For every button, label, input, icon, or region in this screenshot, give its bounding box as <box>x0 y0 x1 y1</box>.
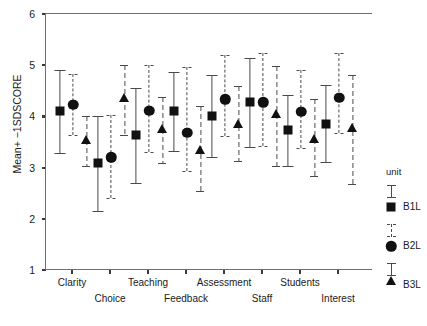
error-bar-cap-bottom <box>335 133 344 134</box>
error-bar-cap-top <box>131 88 142 89</box>
error-bar-cap-bottom <box>283 166 294 167</box>
error-bar-cap-bottom <box>69 135 78 136</box>
error-bar-cap-bottom <box>348 184 356 185</box>
x-tick-label: Staff <box>252 293 272 304</box>
error-bar-cap-top <box>82 116 90 117</box>
y-tick-label: 3 <box>29 163 35 173</box>
error-bar-line <box>186 67 187 171</box>
circle-marker-icon <box>68 99 79 110</box>
error-bar-cap-top <box>93 116 104 117</box>
error-bar-cap-top <box>272 66 280 67</box>
y-tick-label: 2 <box>29 214 35 224</box>
error-bar-cap-bottom <box>93 211 104 212</box>
triangle-marker-icon <box>233 119 243 128</box>
y-tick-label: 6 <box>29 9 35 19</box>
square-marker-icon <box>94 158 103 167</box>
square-marker-icon <box>246 98 255 107</box>
square-marker-icon <box>208 111 217 120</box>
x-tick-mark <box>109 270 111 274</box>
square-marker-icon <box>170 106 179 115</box>
x-tick-mark <box>299 270 301 274</box>
error-bar-cap-top <box>169 72 180 73</box>
error-bar-cap-top <box>145 65 154 66</box>
chart-root: Mean+ −1SDSCORE 123456 unit B1L B2L B3L … <box>0 0 427 326</box>
error-bar-cap-bottom <box>158 163 166 164</box>
triangle-marker-icon <box>386 276 396 285</box>
y-tick-label: 4 <box>29 111 35 121</box>
square-marker-icon <box>284 126 293 135</box>
error-bar-cap-bottom <box>221 136 230 137</box>
error-bar-cap-bottom <box>321 162 332 163</box>
circle-marker-icon <box>106 152 117 163</box>
x-tick-label: Interest <box>321 293 354 304</box>
error-bar-cap-top <box>183 67 192 68</box>
y-tick-label: 5 <box>29 60 35 70</box>
triangle-marker-icon <box>81 135 91 144</box>
triangle-marker-icon <box>157 124 167 133</box>
error-bar-cap-top <box>297 70 306 71</box>
error-bar-cap-bottom <box>196 191 204 192</box>
error-bar-cap-bottom <box>131 183 142 184</box>
square-marker-icon <box>132 131 141 140</box>
error-bar-cap-bottom <box>297 148 306 149</box>
circle-marker-icon <box>182 128 193 139</box>
triangle-marker-icon <box>195 145 205 154</box>
error-bar-cap-top <box>69 74 78 75</box>
error-bar-cap-top <box>196 106 204 107</box>
legend-label-b3l: B3L <box>403 279 421 290</box>
circle-marker-icon <box>386 241 397 252</box>
legend-label-b2l: B2L <box>403 240 421 251</box>
error-bar-cap-bottom <box>107 198 116 199</box>
legend-bar-b1l <box>385 184 427 199</box>
error-bar-cap-top <box>245 58 256 59</box>
legend-bar-b3l <box>385 262 427 277</box>
square-marker-icon <box>387 203 396 212</box>
error-bar-cap-bottom <box>259 146 268 147</box>
legend: unit B1L B2L B3L <box>385 166 427 301</box>
error-bar-cap-bottom <box>245 147 256 148</box>
x-tick-label: Feedback <box>164 293 208 304</box>
x-tick-mark <box>261 270 263 274</box>
triangle-marker-icon <box>347 123 357 132</box>
error-bar-cap-top <box>283 95 294 96</box>
x-tick-mark <box>185 270 187 274</box>
error-bar-cap-top <box>55 70 66 71</box>
error-bar-cap-bottom <box>82 166 90 167</box>
x-tick-mark <box>71 270 73 274</box>
error-bar-cap-bottom <box>207 157 218 158</box>
error-bar-cap-top <box>310 99 318 100</box>
plot-inner <box>46 14 372 269</box>
error-bar-cap-bottom <box>169 151 180 152</box>
error-bar-cap-top <box>234 86 242 87</box>
square-marker-icon <box>322 119 331 128</box>
legend-entry-b3l[interactable]: B3L <box>385 278 427 292</box>
x-tick-mark <box>147 270 149 274</box>
error-bar-cap-top <box>221 55 230 56</box>
triangle-marker-icon <box>119 93 129 102</box>
error-bar-cap-bottom <box>234 161 242 162</box>
error-bar-cap-top <box>335 53 344 54</box>
legend-entry-b2l[interactable]: B2L <box>385 239 427 253</box>
error-bar-cap-top <box>120 65 128 66</box>
square-marker-icon <box>56 107 65 116</box>
legend-bar-b2l <box>385 223 427 238</box>
circle-marker-icon <box>258 97 269 108</box>
x-tick-label: Assessment <box>197 277 251 288</box>
x-tick-label: Clarity <box>58 277 86 288</box>
error-bar-cap-top <box>259 53 268 54</box>
x-tick-label: Choice <box>94 293 125 304</box>
y-tick-label: 1 <box>29 265 35 275</box>
circle-marker-icon <box>296 107 307 118</box>
error-bar-cap-bottom <box>120 135 128 136</box>
legend-entry-b1l[interactable]: B1L <box>385 200 427 214</box>
plot-area <box>45 13 372 270</box>
triangle-marker-icon <box>309 134 319 143</box>
error-bar-cap-bottom <box>272 166 280 167</box>
legend-label-b1l: B1L <box>403 201 421 212</box>
error-bar-cap-bottom <box>55 153 66 154</box>
x-tick-mark <box>337 270 339 274</box>
x-tick-label: Students <box>280 277 319 288</box>
legend-title: unit <box>386 166 427 177</box>
error-bar-cap-top <box>107 115 116 116</box>
circle-marker-icon <box>144 105 155 116</box>
